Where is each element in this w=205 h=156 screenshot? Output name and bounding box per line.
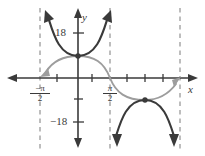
x-axis-arrow-right xyxy=(188,74,198,82)
x-axis-arrow-left xyxy=(7,74,17,82)
x-tick-label-half-pi: π 2 xyxy=(103,84,117,103)
secant-lower-arrow-left xyxy=(112,134,122,147)
x-tick-label-neg-half-pi: −π 2 xyxy=(30,84,50,103)
y-tick-label-neg-18: −18 xyxy=(50,116,67,127)
secant-lower-branch xyxy=(116,100,174,136)
y-tick-label-18: 18 xyxy=(55,27,66,38)
graph-canvas xyxy=(0,0,205,156)
vertex-point-max xyxy=(75,53,80,58)
x-tick-label-neg-half-pi-denominator: 2 xyxy=(30,94,50,103)
x-axis-label: x xyxy=(188,84,193,95)
vertex-point-min xyxy=(142,97,147,102)
y-axis-arrow-down xyxy=(74,138,82,148)
y-axis-arrow-up xyxy=(74,8,82,18)
x-tick-label-half-pi-denominator: 2 xyxy=(103,94,117,103)
y-axis-label: y xyxy=(82,12,87,23)
axes-group xyxy=(7,8,198,148)
secant-lower-branch-group xyxy=(112,100,179,147)
secant-lower-arrow-right xyxy=(169,134,179,147)
graph-figure: 18 −18 y x −π 2 π 2 xyxy=(0,0,205,156)
